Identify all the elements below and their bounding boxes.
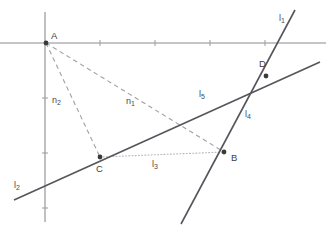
- line-label-l1-sub: 1: [281, 17, 285, 24]
- line-label-l2-sub: 2: [16, 184, 20, 191]
- point-label-B: B: [231, 153, 237, 163]
- line-label-l1: l1: [279, 14, 285, 24]
- point-label-C: C: [96, 164, 103, 174]
- point-label-A: A: [51, 31, 57, 41]
- line-label-l2: l2: [14, 181, 20, 191]
- line-label-l3-sub: 3: [154, 163, 158, 170]
- line-label-n1: n1: [126, 97, 135, 107]
- line-label-n1-sub: 1: [131, 100, 135, 107]
- line-label-l5: l5: [199, 90, 205, 100]
- point-D: [264, 74, 269, 79]
- line-label-l4: l4: [245, 110, 251, 120]
- geometry-canvas: [0, 0, 329, 236]
- line-label-l3: l3: [152, 160, 158, 170]
- line-n1: [46, 43, 224, 152]
- line-label-l4-sub: 4: [247, 113, 251, 120]
- line-l5-l2: [14, 62, 320, 200]
- dashed-lines-group: [46, 43, 224, 157]
- geometry-diagram: A B C D l5 l2 l4 l1 l3 n1 n2: [0, 0, 329, 236]
- line-label-n2-sub: 2: [57, 99, 61, 106]
- point-B: [222, 150, 227, 155]
- point-label-D: D: [259, 59, 266, 69]
- solid-lines-group: [14, 10, 320, 224]
- point-C: [98, 155, 103, 160]
- point-A: [44, 41, 49, 46]
- line-label-l5-sub: 5: [201, 93, 205, 100]
- line-label-n2: n2: [52, 96, 61, 106]
